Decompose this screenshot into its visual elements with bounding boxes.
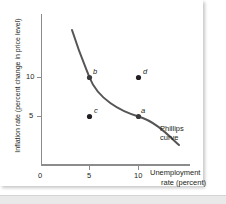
y-axis-title: Inflation rate (percent change in price … <box>14 16 21 156</box>
x-axis-title-line2: rate (percent) <box>150 178 206 188</box>
data-point-label-d: d <box>143 68 147 77</box>
data-point-c <box>87 114 92 119</box>
x-tick-label-0: 0 <box>38 172 42 181</box>
data-point-label-a: a <box>141 107 145 116</box>
phillips-curve-annotation-line1: Phillips <box>160 124 184 133</box>
data-point-b <box>87 75 92 80</box>
phillips-curve-annotation-line2: curve <box>160 133 178 142</box>
phillips-curve-figure: Inflation rate (percent change in price … <box>0 0 226 204</box>
bottom-separator-band <box>0 196 226 204</box>
x-axis-title: Unemployment rate (percent) <box>150 168 206 187</box>
x-axis-title-line1: Unemployment <box>150 168 200 177</box>
figure-panel: Inflation rate (percent change in price … <box>0 0 203 186</box>
x-tick-label-10: 10 <box>134 172 142 181</box>
y-tick-label-10: 10 <box>26 73 34 82</box>
data-point-label-b: b <box>93 68 97 77</box>
y-tick-label-5: 5 <box>29 112 33 121</box>
plot-area <box>0 0 203 186</box>
data-point-label-c: c <box>94 107 98 116</box>
data-point-d <box>136 75 141 80</box>
phillips-curve-annotation: Phillips curve <box>160 124 184 142</box>
x-tick-label-5: 5 <box>87 172 91 181</box>
